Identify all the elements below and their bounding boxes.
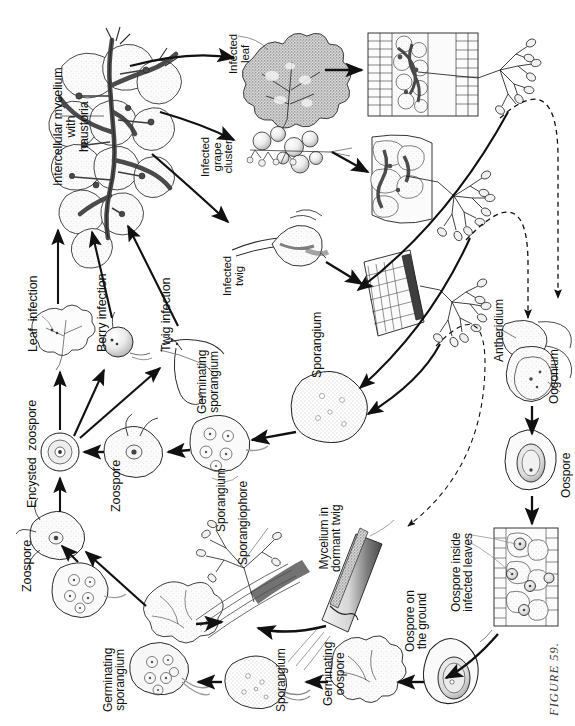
label-infected-twig: Infected twig <box>222 256 245 296</box>
encysted-zoospore-illustration <box>41 433 79 471</box>
label-zoospore-upper: Zoospore <box>110 460 123 512</box>
twig-section-sporulating-illustration <box>364 250 491 348</box>
label-mycelium-in-dormant-twig: Mycelium in dormant twig <box>318 505 342 573</box>
label-infected-grape-cluster: Infected grape cluster <box>200 137 235 177</box>
label-berry-infection: Berry infection <box>96 274 109 352</box>
label-antheridium: Antheridium <box>493 299 505 362</box>
label-sporangium-lower-cycle: Sporangium <box>275 648 287 712</box>
arrow-germsporangium-to-zoospore <box>168 450 190 452</box>
antheridium-oogonium-illustration <box>502 320 572 401</box>
infected-leaf-illustration <box>238 33 351 136</box>
arrow-twigsection-to-sporangium <box>368 344 440 414</box>
figure-caption: FIGURE 59. <box>547 642 562 716</box>
label-sporangiophore: Sporangiophore <box>237 481 249 565</box>
arrow-encysted-to-berryinfection <box>74 370 104 436</box>
label-infected-leaf: Infected leaf <box>228 34 251 74</box>
label-encysted-zoospore: Encysted zoospore <box>26 400 39 508</box>
label-sporangium-on-sporangiophore: Sporangium <box>215 468 227 532</box>
sporangium-main-illustration <box>291 371 367 442</box>
oospore-inside-leaves-illustration <box>466 528 558 642</box>
oospore-on-ground-illustration <box>423 638 478 703</box>
germinated-sporangium-vesicle-illustration <box>130 642 210 695</box>
leaf-infection-illustration <box>32 305 95 370</box>
arrow-twig-to-twigsection <box>326 262 362 284</box>
figure-canvas: Intercellular mycelium with haustoria In… <box>0 0 575 726</box>
infected-twig-illustration <box>232 210 328 266</box>
label-oospore: Oospore <box>560 453 572 498</box>
dashed-arrow-twigsection-to-dormanttwig <box>408 324 485 526</box>
label-germinating-sporangium-upper: Germinating sporangium <box>196 350 220 414</box>
infected-grape-cluster-illustration <box>247 127 352 174</box>
berry-section-sporulating-illustration <box>371 135 496 242</box>
germinating-sporangium-lower-illustration <box>52 563 126 618</box>
label-oospore-inside-infected-leaves: Oospore inside infected leaves <box>450 533 474 612</box>
dashed-arrow-leafsection-to-antheridium <box>500 99 558 298</box>
germinating-sporangium-upper-illustration <box>190 415 268 481</box>
label-germinating-sporangium-lower: Germinating sporangium <box>102 648 126 712</box>
zoospore-vesicle-mass-illustration <box>143 582 223 643</box>
label-intercellular-mycelium: Intercellular mycelium with haustoria <box>52 67 90 186</box>
label-oogonium: Oogonium <box>548 349 560 404</box>
arrow-cluster-to-berrysection <box>332 152 368 172</box>
label-leaf-infection: Leaf infection <box>27 276 40 352</box>
arrow-encysted-to-twiginfection <box>80 368 160 438</box>
label-sporangium-main: Sporangium <box>311 312 324 378</box>
label-twig-infection: Twig infection <box>160 278 173 352</box>
label-germinating-oospore: Germinating oospore <box>322 642 346 706</box>
leaf-section-sporulating-illustration <box>368 33 542 116</box>
arrow-sporangium-to-germsporangium <box>252 432 296 440</box>
oospore-illustration <box>505 430 556 490</box>
label-oospore-on-the-ground: Oospore on the ground <box>404 590 428 652</box>
berry-infection-illustration <box>103 312 152 360</box>
label-zoospore-lower: Zoospore <box>21 540 34 592</box>
